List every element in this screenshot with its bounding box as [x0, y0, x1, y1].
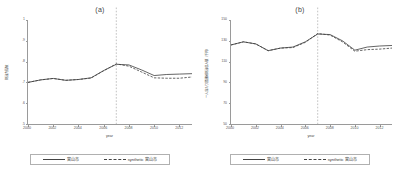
x-tick-label: 2006 — [301, 127, 309, 131]
legend-item-synthetic: synthetic 富山市 — [304, 158, 357, 162]
panel-b-title: (b) — [200, 6, 400, 13]
legend-label-treated: 富山市 — [267, 158, 279, 162]
legend-item-synthetic: synthetic 富山市 — [104, 158, 157, 162]
y-tick-label: 110 — [222, 60, 227, 63]
panel-a-legend: 富山市 synthetic 富山市 — [30, 154, 170, 165]
panel-a-axes — [27, 20, 192, 125]
figure-synthetic-control: (a) 財政力指数 1 .9 .8 .7 .6 .5 — [0, 0, 400, 171]
panel-a: (a) 財政力指数 1 .9 .8 .7 .6 .5 — [0, 0, 200, 171]
legend-line-dashed-icon — [304, 159, 326, 160]
legend-line-solid-icon — [243, 159, 265, 160]
x-tick-label: 2006 — [99, 127, 107, 131]
x-tick-label: 2008 — [326, 127, 334, 131]
x-tick-label: 2000 — [23, 127, 31, 131]
x-tick-label: 2002 — [251, 127, 259, 131]
y-tick-label: 70 — [223, 102, 227, 105]
x-tick-label: 2000 — [226, 127, 234, 131]
panel-a-x-axis-title: year — [27, 134, 192, 138]
x-tick-label: 2010 — [351, 127, 359, 131]
panel-b-y-tick-labels: 150 130 110 90 70 50 — [214, 20, 228, 125]
panel-b: (b) 一人当たり普通税財政収入額（千円） 150 130 110 90 70 … — [200, 0, 400, 171]
legend-label-synthetic: synthetic 富山市 — [328, 158, 357, 162]
panel-a-plot-area: 財政力指数 1 .9 .8 .7 .6 .5 — [0, 20, 200, 132]
x-tick-label: 2004 — [74, 127, 82, 131]
x-tick-label: 2012 — [175, 127, 183, 131]
legend-line-dashed-icon — [104, 159, 126, 160]
panel-b-legend: 富山市 synthetic 富山市 — [230, 154, 370, 165]
panel-a-title: (a) — [0, 6, 200, 13]
panel-b-plot-area: 一人当たり普通税財政収入額（千円） 150 130 110 90 70 50 — [200, 20, 400, 132]
series-line-synthetic — [28, 64, 192, 83]
x-tick-label: 2008 — [125, 127, 133, 131]
panel-a-series-canvas — [28, 20, 192, 124]
series-line-treated — [231, 34, 392, 51]
panel-b-x-axis-title: year — [230, 134, 392, 138]
legend-item-treated: 富山市 — [243, 158, 279, 162]
panel-a-y-tick-labels: 1 .9 .8 .7 .6 .5 — [12, 20, 26, 125]
x-tick-label: 2004 — [276, 127, 284, 131]
x-tick-label: 2010 — [150, 127, 158, 131]
x-tick-label: 2002 — [48, 127, 56, 131]
panel-b-series-canvas — [231, 20, 392, 124]
panel-b-axes — [230, 20, 392, 125]
legend-item-treated: 富山市 — [43, 158, 79, 162]
y-tick-label: 150 — [221, 18, 227, 21]
x-tick-label: 2012 — [376, 127, 384, 131]
series-line-synthetic — [231, 34, 392, 52]
legend-line-solid-icon — [43, 159, 65, 160]
legend-label-synthetic: synthetic 富山市 — [128, 158, 157, 162]
panel-b-y-axis-title: 一人当たり普通税財政収入額（千円） — [202, 20, 212, 125]
y-tick-label: 130 — [221, 39, 227, 42]
panel-a-y-axis-title: 財政力指数 — [2, 20, 12, 125]
legend-label-treated: 富山市 — [67, 158, 79, 162]
y-tick-label: 90 — [223, 81, 227, 84]
